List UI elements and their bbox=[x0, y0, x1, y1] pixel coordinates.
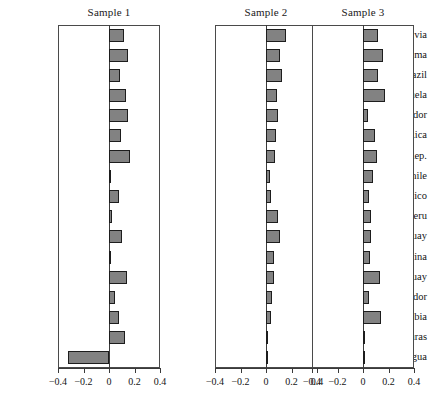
bar bbox=[363, 109, 368, 122]
bar bbox=[363, 150, 377, 163]
bar bbox=[109, 311, 119, 324]
bar bbox=[109, 251, 111, 264]
bar bbox=[109, 210, 112, 223]
x-axis-tick bbox=[414, 368, 415, 373]
bar bbox=[109, 271, 127, 284]
bar bbox=[363, 271, 380, 284]
bar bbox=[266, 251, 274, 264]
bar bbox=[363, 291, 369, 304]
bar bbox=[266, 271, 274, 284]
bar bbox=[109, 69, 120, 82]
bar bbox=[109, 129, 121, 142]
bar bbox=[266, 230, 280, 243]
bar bbox=[363, 311, 381, 324]
bar bbox=[266, 190, 271, 203]
bar bbox=[363, 49, 383, 62]
bar bbox=[363, 69, 378, 82]
bar bbox=[363, 129, 375, 142]
bar bbox=[109, 230, 122, 243]
bar bbox=[266, 89, 277, 102]
x-axis-tick-label: 0.4 bbox=[142, 376, 178, 387]
bar bbox=[109, 29, 124, 42]
x-axis-line-2 bbox=[215, 368, 317, 369]
bar bbox=[363, 210, 371, 223]
bar bbox=[266, 291, 272, 304]
bar bbox=[266, 150, 275, 163]
bar bbox=[363, 170, 373, 183]
bar bbox=[109, 291, 115, 304]
bar bbox=[109, 89, 126, 102]
bar bbox=[266, 29, 286, 42]
x-axis-line-1 bbox=[58, 368, 160, 369]
bar bbox=[266, 109, 278, 122]
bar bbox=[363, 230, 371, 243]
x-axis-tick bbox=[160, 368, 161, 373]
bar bbox=[266, 351, 268, 364]
bar bbox=[266, 311, 271, 324]
panel-title-3: Sample 3 bbox=[312, 6, 414, 18]
bar bbox=[109, 190, 119, 203]
bar bbox=[363, 251, 370, 264]
bar bbox=[266, 129, 276, 142]
bar bbox=[266, 331, 268, 344]
bar bbox=[266, 210, 278, 223]
bar bbox=[363, 190, 369, 203]
bar bbox=[266, 170, 270, 183]
panel-title-1: Sample 1 bbox=[58, 6, 160, 18]
bar bbox=[363, 89, 385, 102]
bar bbox=[109, 150, 130, 163]
bar bbox=[266, 49, 280, 62]
bar bbox=[266, 69, 282, 82]
x-axis-line-3 bbox=[312, 368, 414, 369]
bar bbox=[109, 49, 128, 62]
bar bbox=[109, 331, 125, 344]
bar bbox=[109, 109, 128, 122]
bar bbox=[68, 351, 109, 364]
bar bbox=[363, 351, 365, 364]
panel-title-2: Sample 2 bbox=[215, 6, 317, 18]
bar bbox=[109, 170, 111, 183]
bar bbox=[363, 331, 365, 344]
x-axis-tick-label: 0.4 bbox=[396, 376, 432, 387]
bar bbox=[363, 29, 378, 42]
